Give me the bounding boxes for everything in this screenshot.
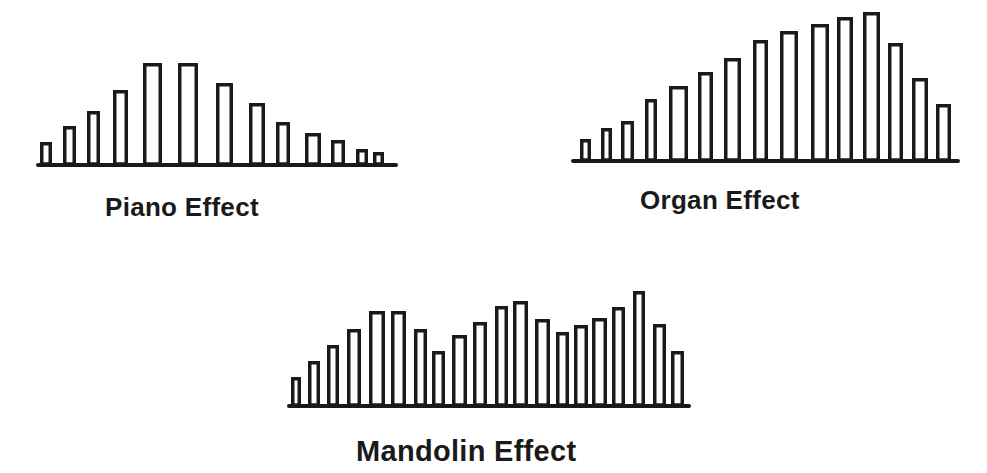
bar xyxy=(537,321,549,405)
bar xyxy=(635,293,644,405)
bar xyxy=(890,45,902,160)
bar xyxy=(375,154,383,164)
effects-diagram xyxy=(0,0,987,473)
bar xyxy=(558,334,568,405)
organ-effect-label: Organ Effect xyxy=(640,185,800,216)
mandolin-effect-label: Mandolin Effect xyxy=(356,435,576,468)
bar xyxy=(603,130,611,160)
bar xyxy=(623,123,633,160)
bar xyxy=(416,331,426,405)
bar xyxy=(655,326,665,405)
bar xyxy=(454,337,466,405)
bar xyxy=(278,124,289,164)
bar xyxy=(310,363,319,405)
bar xyxy=(358,151,367,164)
bar xyxy=(218,85,232,164)
organ-effect-chart xyxy=(573,14,958,161)
bar xyxy=(475,324,486,405)
bar xyxy=(700,74,712,160)
bar xyxy=(251,105,264,164)
bar xyxy=(329,347,338,405)
bar xyxy=(293,379,300,405)
bar xyxy=(865,14,879,160)
bar xyxy=(755,42,767,160)
bar xyxy=(576,327,587,405)
bar xyxy=(782,33,797,160)
bar xyxy=(65,128,75,164)
bar xyxy=(145,65,161,164)
bar xyxy=(434,353,444,405)
bar xyxy=(582,141,590,160)
bar xyxy=(371,313,384,405)
piano-effect-label: Piano Effect xyxy=(105,192,259,223)
bar xyxy=(726,60,740,160)
piano-effect-chart xyxy=(38,65,396,165)
bar xyxy=(349,331,360,405)
bar xyxy=(333,142,344,164)
bar xyxy=(673,353,683,405)
bar xyxy=(393,313,405,405)
bar xyxy=(671,88,687,160)
bar xyxy=(647,101,656,160)
bar xyxy=(594,320,606,405)
bar xyxy=(115,92,127,164)
mandolin-effect-chart xyxy=(289,293,689,406)
bar xyxy=(813,26,828,160)
bar xyxy=(89,113,99,164)
bar xyxy=(938,106,950,160)
bar xyxy=(614,309,624,405)
bar xyxy=(515,303,527,405)
bar xyxy=(839,19,852,160)
bar xyxy=(914,80,927,160)
bar xyxy=(42,144,51,164)
bar xyxy=(180,65,197,164)
bar xyxy=(497,308,507,405)
bar xyxy=(307,135,320,164)
